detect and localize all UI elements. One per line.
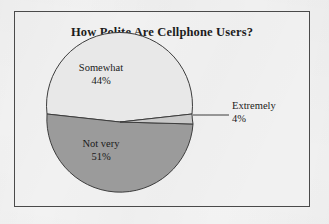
pie-label-not-very: Not very 51% — [53, 138, 149, 163]
pie-chart: Somewhat 44% Not very 51% Extremely 4% — [15, 12, 309, 206]
pie-label-not-very-name: Not very — [53, 138, 149, 151]
pie-label-extremely-value: 4% — [232, 113, 276, 126]
pie-label-extremely: Extremely 4% — [232, 100, 276, 125]
pie-label-somewhat: Somewhat 44% — [53, 62, 149, 87]
pie-label-somewhat-name: Somewhat — [53, 62, 149, 75]
pie-label-somewhat-value: 44% — [53, 75, 149, 88]
chart-frame: How Polite Are Cellphone Users? Somewhat… — [14, 11, 310, 207]
page-background: How Polite Are Cellphone Users? Somewhat… — [0, 0, 329, 224]
pie-label-extremely-name: Extremely — [232, 100, 276, 113]
pie-label-not-very-value: 51% — [53, 151, 149, 164]
